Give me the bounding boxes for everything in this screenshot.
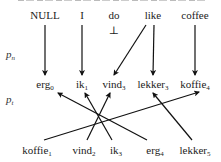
pt-label: pt — [5, 93, 15, 107]
permuted-token-ik3: ik3 — [110, 144, 123, 158]
permuted-token-lekker5: lekker5 — [180, 144, 211, 158]
target-token-erg0: erg0 — [36, 78, 54, 92]
source-token-do: do — [109, 9, 121, 21]
source-token-like: like — [145, 9, 162, 21]
target-token-vind3: vind3 — [102, 78, 126, 92]
token-labels: NULLIdolikecoffeeerg0ik1vind3lekker3koff… — [22, 9, 211, 158]
source-token-coffee: coffee — [181, 9, 208, 21]
pt-arrow-erg4-erg0 — [58, 93, 147, 140]
permuted-token-vind2: vind2 — [72, 144, 96, 158]
pn-label: pn — [5, 48, 16, 62]
alignment-diagram: NULLIdolikecoffeeerg0ik1vind3lekker3koff… — [0, 0, 221, 162]
pt-arrow-ik3-ik1 — [85, 93, 112, 140]
target-token-lekker3: lekker3 — [138, 78, 169, 92]
permuted-token-erg4: erg4 — [146, 144, 164, 158]
source-token-null: NULL — [30, 9, 60, 21]
source-token-i: I — [80, 9, 84, 21]
target-token-koffie4: koffie4 — [180, 78, 210, 92]
target-token-ik1: ik1 — [76, 78, 89, 92]
pt-arrow-koffie1-koffie4 — [44, 92, 199, 140]
pn-arrow-like-lekker3 — [153, 25, 154, 75]
null-alignment-marker: ⊥ — [109, 24, 119, 36]
permuted-token-koffie1: koffie1 — [22, 144, 52, 158]
